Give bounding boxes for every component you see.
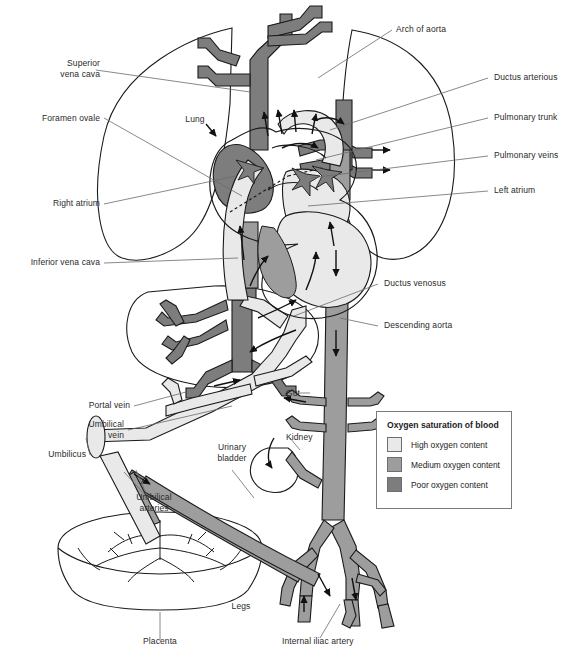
legend-swatch-medium bbox=[387, 457, 402, 472]
label-descending-aorta: Descending aorta bbox=[384, 320, 480, 331]
legend-label-high: High oxygen content bbox=[411, 440, 487, 450]
legend-swatch-poor bbox=[387, 477, 402, 492]
circulation-drawing bbox=[0, 0, 572, 654]
legend-swatch-high bbox=[387, 437, 402, 452]
label-right-atrium: Right atrium bbox=[30, 198, 100, 209]
label-umbilical-arteries: Umbilical arteries bbox=[126, 492, 182, 514]
label-ductus-arteriosus: Ductus arterious bbox=[494, 72, 572, 83]
label-kidney: Kidney bbox=[286, 432, 326, 443]
legend-label-medium: Medium oxygen content bbox=[411, 460, 500, 470]
label-left-atrium: Left atrium bbox=[494, 185, 572, 196]
label-arch-of-aorta: Arch of aorta bbox=[396, 24, 486, 35]
legend-title: Oxygen saturation of blood bbox=[387, 420, 502, 430]
legend-panel: Oxygen saturation of blood High oxygen c… bbox=[376, 411, 512, 509]
label-pulmonary-veins: Pulmonary veins bbox=[494, 150, 572, 161]
label-internal-iliac-artery: Internal iliac artery bbox=[282, 636, 400, 647]
legend-item-high: High oxygen content bbox=[387, 437, 502, 452]
fetal-circulation-figure: Superior vena cava Foramen ovale Right a… bbox=[0, 0, 572, 654]
label-foramen-ovale: Foramen ovale bbox=[24, 113, 100, 124]
label-inferior-vena-cava: Inferior vena cava bbox=[10, 257, 100, 268]
legend-item-poor: Poor oxygen content bbox=[387, 477, 502, 492]
label-superior-vena-cava: Superior vena cava bbox=[38, 58, 100, 80]
label-pulmonary-trunk: Pulmonary trunk bbox=[494, 112, 572, 123]
legend-label-poor: Poor oxygen content bbox=[411, 480, 488, 490]
label-legs: Legs bbox=[226, 601, 256, 612]
label-gut: Gut bbox=[278, 388, 300, 399]
lung-left bbox=[341, 30, 454, 259]
label-umbilicus: Umbilicus bbox=[26, 449, 86, 460]
label-placenta: Placenta bbox=[128, 636, 192, 647]
lung-right bbox=[98, 28, 232, 260]
label-portal-vein: Portal vein bbox=[72, 400, 130, 411]
label-umbilical-vein: Umbilical vein bbox=[66, 419, 124, 441]
label-urinary-bladder: Urinary bladder bbox=[206, 442, 258, 464]
label-lung: Lung bbox=[180, 114, 210, 125]
legend-item-medium: Medium oxygen content bbox=[387, 457, 502, 472]
label-ductus-venosus: Ductus venosus bbox=[384, 278, 474, 289]
